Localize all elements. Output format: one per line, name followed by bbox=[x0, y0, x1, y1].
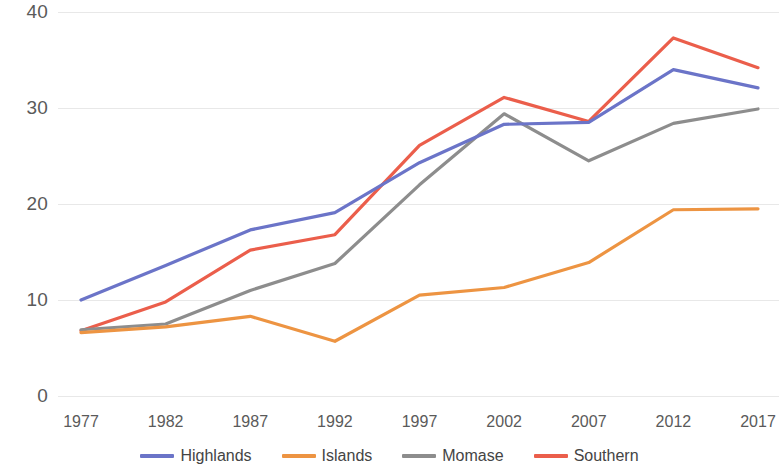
legend-item-highlands[interactable]: Highlands bbox=[140, 448, 251, 464]
y-axis-tick-text: 40 bbox=[4, 2, 48, 21]
x-axis-tick-label: 1992 bbox=[290, 414, 380, 430]
legend-item-southern[interactable]: Southern bbox=[534, 448, 639, 464]
legend-line-swatch-icon bbox=[402, 454, 436, 458]
legend-label: Islands bbox=[322, 448, 373, 464]
legend-label: Southern bbox=[574, 448, 639, 464]
y-axis-tick-text: 0 bbox=[4, 386, 48, 405]
legend-line-swatch-icon bbox=[282, 454, 316, 458]
y-axis-tick-label: 0 bbox=[4, 386, 48, 405]
x-axis-tick-label: 2017 bbox=[713, 414, 779, 430]
legend-line-swatch-icon bbox=[140, 454, 174, 458]
x-axis-tick-label: 2012 bbox=[628, 414, 718, 430]
legend-item-islands[interactable]: Islands bbox=[282, 448, 373, 464]
x-axis-tick-label: 1977 bbox=[36, 414, 126, 430]
y-axis-tick-label: 10 bbox=[4, 290, 48, 309]
y-axis-tick-label: 40 bbox=[4, 2, 48, 21]
x-axis-tick-label: 2007 bbox=[544, 414, 634, 430]
y-axis-tick-label: 20 bbox=[4, 194, 48, 213]
series-line-islands bbox=[81, 209, 758, 341]
y-axis-tick-text: 20 bbox=[4, 194, 48, 213]
line-chart: 010203040 197719821987199219972002200720… bbox=[0, 0, 779, 474]
y-axis-tick-text: 30 bbox=[4, 98, 48, 117]
x-axis-tick-label: 1997 bbox=[375, 414, 465, 430]
y-axis-tick-label: 30 bbox=[4, 98, 48, 117]
legend-label: Highlands bbox=[180, 448, 251, 464]
x-axis-tick-label: 1982 bbox=[121, 414, 211, 430]
legend-label: Momase bbox=[442, 448, 503, 464]
legend-line-swatch-icon bbox=[534, 454, 568, 458]
chart-legend: HighlandsIslandsMomaseSouthern bbox=[0, 448, 779, 464]
legend-item-momase[interactable]: Momase bbox=[402, 448, 503, 464]
plot-area bbox=[0, 0, 779, 474]
x-axis-tick-label: 2002 bbox=[459, 414, 549, 430]
y-axis-tick-text: 10 bbox=[4, 290, 48, 309]
series-lines bbox=[0, 0, 779, 474]
x-axis-tick-label: 1987 bbox=[205, 414, 295, 430]
